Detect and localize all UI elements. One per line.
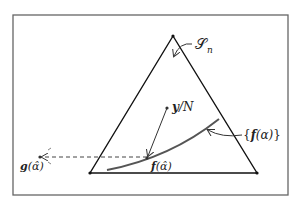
point-g-alpha-hat [38,155,41,158]
brace-close: } [273,128,281,142]
simplex-pointer-arrow [174,44,192,56]
vertex-bottom-left [88,171,91,174]
projection-arrow [148,108,167,156]
g-hat-label: g(α̂) [20,161,44,172]
f-set-argument: (α) [256,128,273,142]
g-hat-argument: (α̂) [28,160,44,173]
simplex-label: 𝒮n [195,37,213,55]
f-hat-label: f(α̂) [151,161,172,172]
y-over-n-denominator: /N [179,100,194,114]
curve-pointer-arrow [208,130,242,136]
vertex-bottom-right [255,171,258,174]
y-over-n-label: y/N [172,101,194,113]
y-vector: y [172,100,179,114]
diagram-canvas [0,0,300,208]
g-hat-symbol: g [20,160,28,173]
g-pointer-tick [48,148,51,164]
vertex-apex [171,34,174,37]
f-hat-argument: (α̂) [156,160,172,173]
brace-open: { [243,128,251,142]
simplex-subscript: n [207,45,213,55]
simplex-symbol: 𝒮 [195,35,207,53]
f-set-label: {f(α)} [243,129,281,141]
